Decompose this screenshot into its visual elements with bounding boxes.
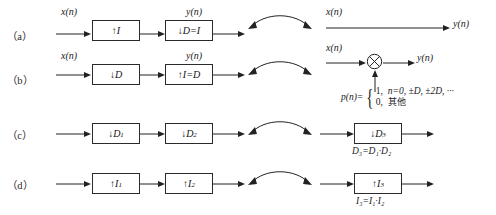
row-c-block-1-text: D xyxy=(113,129,120,139)
pn-formula-cases: 1, n=0, ±D, ±2D, ··· 0, 其他 xyxy=(376,86,454,108)
pn-formula-brace-wrap: { 1, n=0, ±D, ±2D, ··· 0, 其他 xyxy=(364,86,454,108)
row-c-right-block-sub: 3 xyxy=(382,132,386,139)
row-c-right-block: ↓D3 xyxy=(354,123,402,144)
pn-formula-lhs: p(n)= xyxy=(341,92,363,102)
equivalence-arc-d xyxy=(243,166,317,190)
row-c-right-wire-in xyxy=(320,130,354,138)
row-d-block-1-sub: 1 xyxy=(118,182,122,189)
row-c-block-1: ↓D1 xyxy=(92,123,140,144)
row-a-wire-mid xyxy=(140,30,165,38)
row-b-right-wire-out xyxy=(383,59,415,67)
row-c-block-1-sub: 1 xyxy=(120,132,124,139)
multirate-equivalence-figure: （a） x(n) ↑I ↓D=I y(n) x(n) y(n) （b） x(n) xyxy=(0,0,496,215)
row-a-output-label: y(n) xyxy=(186,6,202,17)
row-a-wire-out xyxy=(213,30,245,38)
pn-case-2-condition: 其他 xyxy=(388,97,406,108)
row-b-input-label: x(n) xyxy=(61,50,77,61)
row-a-right-output-label: y(n) xyxy=(453,18,469,29)
pn-formula: p(n)= { 1, n=0, ±D, ±2D, ··· 0, 其他 xyxy=(341,86,454,108)
row-a-block-1: ↑I xyxy=(92,20,140,41)
row-b-block-1: ↓D xyxy=(92,64,140,85)
row-d-right-wire-out xyxy=(402,180,434,188)
row-b-right-output-label: y(n) xyxy=(417,52,433,63)
row-b-right-input-label: x(n) xyxy=(326,42,342,53)
pn-case-1-value: 1, xyxy=(376,86,388,97)
row-a-block-2-text: D=I xyxy=(183,26,200,36)
row-d-block-2-sub: 2 xyxy=(191,182,195,189)
row-c-block-2-text: D xyxy=(186,129,193,139)
row-c-wire-out xyxy=(213,130,245,138)
row-c-right-wire-out xyxy=(402,130,434,138)
row-b-wire-mid xyxy=(140,71,165,79)
multiplier-icon xyxy=(366,53,383,70)
pn-case-1: 1, n=0, ±D, ±2D, ··· xyxy=(376,86,454,97)
row-d-right-wire-in xyxy=(320,180,354,188)
row-b-wire-out xyxy=(213,71,245,79)
row-label-c: （c） xyxy=(7,127,32,142)
row-d-right-block-sub: 3 xyxy=(380,182,384,189)
equivalence-arc-a xyxy=(243,10,317,34)
row-b-output-label: y(n) xyxy=(186,50,202,61)
row-c-equation: D₃=D₁·D₂ xyxy=(352,146,391,156)
row-b-block-2-text: I=D xyxy=(183,70,200,80)
pn-case-2-value: 0, xyxy=(376,97,388,108)
left-brace-icon: { xyxy=(366,89,373,105)
row-d-block-1: ↑I1 xyxy=(92,173,140,194)
row-b-block-2: ↑I=D xyxy=(165,64,213,85)
row-d-equation: I₃=I₁·I₂ xyxy=(356,196,384,206)
row-a-block-2: ↓D=I xyxy=(165,20,213,41)
row-a-right-wire xyxy=(326,24,450,32)
row-label-a: （a） xyxy=(7,28,32,43)
equivalence-arc-b xyxy=(243,56,317,80)
pn-case-2: 0, 其他 xyxy=(376,97,454,108)
row-a-input-label: x(n) xyxy=(61,6,77,17)
row-d-right-block: ↑I3 xyxy=(354,173,402,194)
row-label-d: （d） xyxy=(7,177,33,192)
row-c-block-2-sub: 2 xyxy=(193,132,197,139)
row-c-wire-mid xyxy=(140,130,165,138)
row-c-block-2: ↓D2 xyxy=(165,123,213,144)
row-c-wire-in xyxy=(56,130,92,138)
row-b-block-1-text: D xyxy=(115,70,122,80)
pn-case-1-condition: n=0, ±D, ±2D, ··· xyxy=(388,86,454,97)
row-d-wire-in xyxy=(56,180,92,188)
row-a-right-input-label: x(n) xyxy=(326,6,342,17)
row-d-block-2: ↑I2 xyxy=(165,173,213,194)
row-a-wire-in xyxy=(56,30,92,38)
row-b-right-wire-in xyxy=(326,59,366,67)
row-d-wire-out xyxy=(213,180,245,188)
row-a-block-1-text: I xyxy=(117,26,120,36)
row-b-wire-in xyxy=(56,71,92,79)
equivalence-arc-c xyxy=(243,116,317,140)
row-label-b: （b） xyxy=(7,72,33,87)
row-d-wire-mid xyxy=(140,180,165,188)
